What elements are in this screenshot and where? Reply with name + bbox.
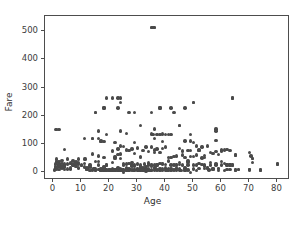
- data-point: [133, 141, 136, 144]
- data-point: [181, 149, 184, 152]
- y-tick-label: 0: [33, 166, 38, 176]
- data-point: [91, 152, 94, 155]
- data-point: [97, 154, 100, 157]
- data-point: [167, 159, 170, 162]
- data-point: [231, 96, 234, 99]
- data-point: [133, 152, 136, 155]
- data-point: [137, 168, 140, 171]
- data-point: [214, 162, 217, 165]
- data-point: [151, 133, 154, 136]
- y-tick-mark: [41, 58, 44, 59]
- x-tick-label: 10: [75, 183, 86, 193]
- data-point: [136, 146, 139, 149]
- y-tick-mark: [41, 171, 44, 172]
- data-point: [119, 152, 122, 155]
- data-point: [158, 151, 161, 154]
- data-point: [83, 157, 86, 160]
- x-tick-label: 0: [50, 183, 55, 193]
- data-point: [211, 168, 214, 171]
- data-point: [99, 139, 102, 142]
- data-point: [130, 147, 133, 150]
- y-tick-mark: [41, 30, 44, 31]
- data-point: [179, 169, 182, 172]
- data-point: [153, 26, 156, 29]
- data-point: [111, 96, 114, 99]
- data-point: [189, 149, 192, 152]
- data-point: [169, 156, 172, 159]
- x-tick-mark: [192, 179, 193, 182]
- x-tick-label: 40: [159, 183, 170, 193]
- x-tick-label: 60: [215, 183, 226, 193]
- data-point: [155, 133, 158, 136]
- data-point: [228, 149, 231, 152]
- data-point: [228, 163, 231, 166]
- data-point: [119, 101, 122, 104]
- x-tick-mark: [108, 179, 109, 182]
- data-point: [178, 124, 181, 127]
- data-point: [85, 168, 88, 171]
- data-point: [276, 162, 279, 165]
- data-point: [169, 163, 172, 166]
- data-point: [133, 163, 136, 166]
- data-point: [147, 150, 150, 153]
- data-point: [203, 164, 206, 167]
- x-tick-label: 50: [187, 183, 198, 193]
- data-point: [195, 153, 198, 156]
- data-point: [63, 148, 66, 151]
- data-point: [116, 106, 119, 109]
- data-point: [127, 168, 130, 171]
- x-tick-mark: [80, 179, 81, 182]
- data-point: [164, 145, 167, 148]
- x-tick-label: 80: [271, 183, 282, 193]
- data-point: [248, 168, 251, 171]
- x-tick-mark: [220, 179, 221, 182]
- data-point: [220, 149, 223, 152]
- y-tick-mark: [41, 143, 44, 144]
- data-point: [214, 139, 217, 142]
- data-point: [83, 137, 86, 140]
- data-point: [183, 106, 186, 109]
- data-point: [158, 106, 161, 109]
- data-point: [66, 167, 69, 170]
- x-axis-label: Age: [0, 196, 305, 206]
- y-tick-label: 500: [22, 25, 38, 35]
- data-point: [217, 153, 220, 156]
- x-tick-mark: [52, 179, 53, 182]
- y-tick-mark: [41, 115, 44, 116]
- data-point: [144, 169, 147, 172]
- data-point: [207, 168, 210, 171]
- data-point: [259, 168, 262, 171]
- data-point: [119, 157, 122, 160]
- x-tick-mark: [248, 179, 249, 182]
- data-point: [169, 106, 172, 109]
- data-point: [116, 147, 119, 150]
- data-point: [209, 163, 212, 166]
- data-point: [192, 101, 195, 104]
- data-point: [113, 168, 116, 171]
- data-point: [125, 132, 128, 135]
- data-point: [195, 144, 198, 147]
- data-point: [228, 168, 231, 171]
- data-point: [167, 133, 170, 136]
- data-point: [102, 106, 105, 109]
- y-tick-label: 300: [22, 82, 38, 92]
- data-point: [97, 129, 100, 132]
- data-point: [132, 169, 135, 172]
- data-point: [237, 168, 240, 171]
- x-tick-label: 70: [243, 183, 254, 193]
- data-point: [183, 139, 186, 142]
- data-point: [155, 147, 158, 150]
- x-tick-mark: [164, 179, 165, 182]
- data-point: [139, 155, 142, 158]
- x-tick-mark: [136, 179, 137, 182]
- data-point: [214, 129, 217, 132]
- data-point: [113, 141, 116, 144]
- data-point: [206, 144, 209, 147]
- data-point: [189, 133, 192, 136]
- data-point: [125, 148, 128, 151]
- data-point: [150, 111, 153, 114]
- data-point: [105, 133, 108, 136]
- data-point: [234, 153, 237, 156]
- data-point: [99, 169, 102, 172]
- data-point: [150, 168, 153, 171]
